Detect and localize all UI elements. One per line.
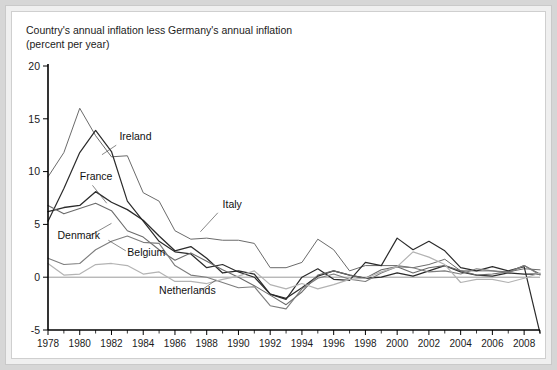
x-tick-label: 1982 bbox=[100, 338, 123, 349]
x-tick-label: 1986 bbox=[164, 338, 187, 349]
x-tick-label: 2002 bbox=[418, 338, 441, 349]
series-line-ireland bbox=[48, 130, 540, 333]
x-tick-label: 2004 bbox=[450, 338, 473, 349]
x-tick-label: 1978 bbox=[37, 338, 60, 349]
x-tick-label: 2006 bbox=[481, 338, 504, 349]
x-tick-label: 1994 bbox=[291, 338, 314, 349]
series-line-france bbox=[48, 192, 540, 299]
series-label-italy: Italy bbox=[223, 198, 243, 210]
x-tick-label: 1992 bbox=[259, 338, 282, 349]
x-tick-label: 1988 bbox=[196, 338, 219, 349]
series-line-netherlands bbox=[48, 252, 540, 289]
series-line-denmark bbox=[48, 203, 540, 304]
series-label-france: France bbox=[80, 170, 113, 182]
x-tick-label: 2000 bbox=[386, 338, 409, 349]
plot-area: -505101520197819801982198419861988199019… bbox=[0, 0, 557, 370]
annotation-leader-belgium bbox=[108, 240, 125, 251]
y-tick-label: 5 bbox=[34, 218, 40, 230]
y-tick-label: 0 bbox=[34, 271, 40, 283]
annotation-leader-france bbox=[92, 185, 106, 203]
x-tick-label: 1998 bbox=[354, 338, 377, 349]
series-label-belgium: Belgium bbox=[127, 246, 165, 258]
x-tick-label: 2008 bbox=[513, 338, 536, 349]
y-tick-label: -5 bbox=[31, 324, 40, 336]
annotation-leader-italy bbox=[200, 213, 217, 232]
series-label-denmark: Denmark bbox=[58, 229, 101, 241]
x-tick-label: 1984 bbox=[132, 338, 155, 349]
x-tick-label: 1996 bbox=[323, 338, 346, 349]
series-label-ireland: Ireland bbox=[119, 130, 151, 142]
y-tick-label: 20 bbox=[28, 60, 40, 72]
line-chart: -505101520197819801982198419861988199019… bbox=[0, 0, 557, 370]
y-tick-label: 10 bbox=[28, 165, 40, 177]
y-tick-label: 15 bbox=[28, 113, 40, 125]
x-tick-label: 1980 bbox=[69, 338, 92, 349]
x-tick-label: 1990 bbox=[227, 338, 250, 349]
series-label-netherlands: Netherlands bbox=[159, 284, 216, 296]
figure-container: Country's annual inflation less Germany'… bbox=[0, 0, 557, 370]
